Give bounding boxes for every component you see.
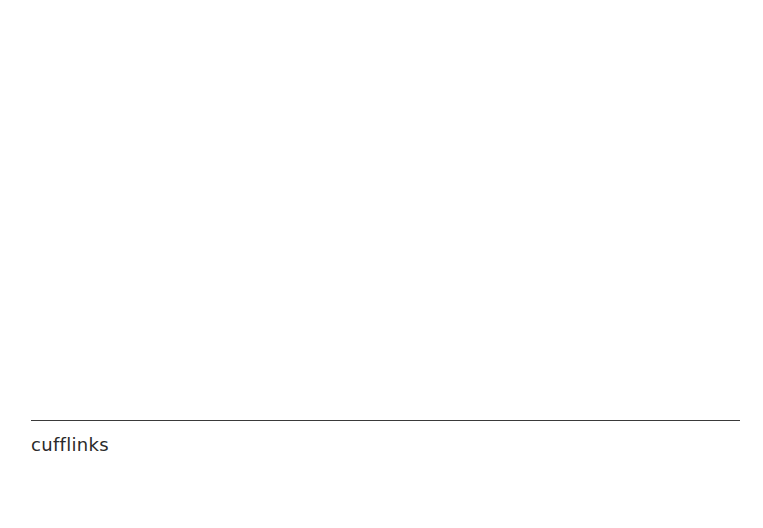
caption-text: cufflinks [31,434,109,456]
caption-divider [31,420,740,421]
blank-image-area [0,0,763,410]
